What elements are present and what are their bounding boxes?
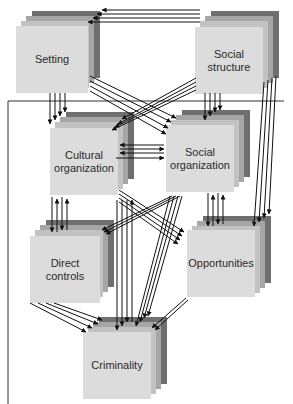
node-label: Social organization (170, 146, 230, 172)
node-label: Social structure (208, 48, 251, 74)
node-label: Cultural organization (54, 149, 114, 175)
diagram-canvas: Setting Social structure Cultural organi… (0, 0, 293, 404)
node-label: Criminality (91, 359, 142, 372)
node-label: Direct controls (46, 257, 85, 283)
node-label: Setting (35, 53, 69, 66)
node-label: Opportunities (188, 257, 253, 270)
